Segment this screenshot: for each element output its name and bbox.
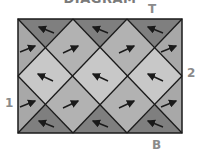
tiling-diagram xyxy=(0,0,203,156)
